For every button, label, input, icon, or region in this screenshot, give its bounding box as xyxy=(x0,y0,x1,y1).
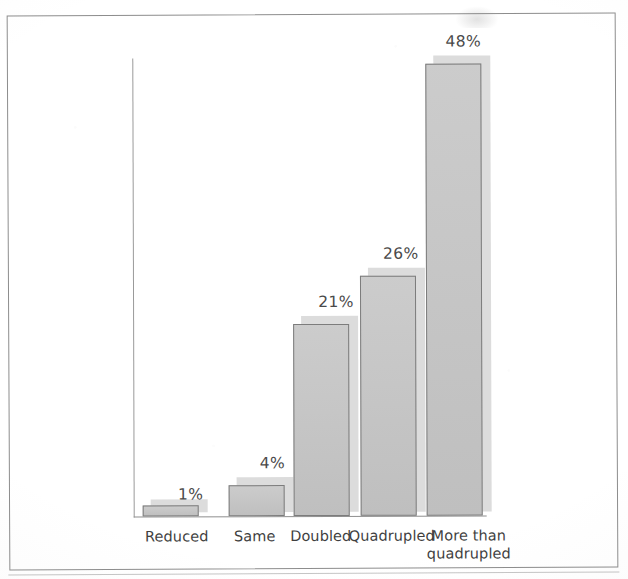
chart-page: 1% 4% 21% 26% xyxy=(0,0,628,579)
bar-value-quadrupled: 26% xyxy=(366,245,436,263)
bar-value-doubled: 21% xyxy=(301,293,371,311)
bar-body-more-than-quadrupled xyxy=(425,63,482,515)
x-axis-label-more-than-quadrupled-text-line2: quadrupled xyxy=(419,544,519,562)
plot-area: 1% 4% 21% 26% xyxy=(0,0,628,579)
bar-body-reduced xyxy=(143,505,199,516)
bar-value-more-than-quadrupled: 48% xyxy=(428,32,498,50)
y-axis-line xyxy=(132,59,134,518)
x-axis-label-doubled-text: Doubled xyxy=(290,528,351,544)
x-axis-label-same-text: Same xyxy=(234,528,276,544)
x-axis-label-more-than-quadrupled: More than quadrupled xyxy=(419,526,519,562)
bar-value-reduced: 1% xyxy=(156,485,226,503)
bar-body-same xyxy=(229,485,285,516)
x-axis-label-reduced-text: Reduced xyxy=(145,528,209,544)
bar-body-doubled xyxy=(293,324,350,516)
x-axis-label-more-than-quadrupled-text: More than xyxy=(432,527,506,543)
bar-value-same: 4% xyxy=(238,454,308,472)
bar-body-quadrupled xyxy=(360,276,417,516)
